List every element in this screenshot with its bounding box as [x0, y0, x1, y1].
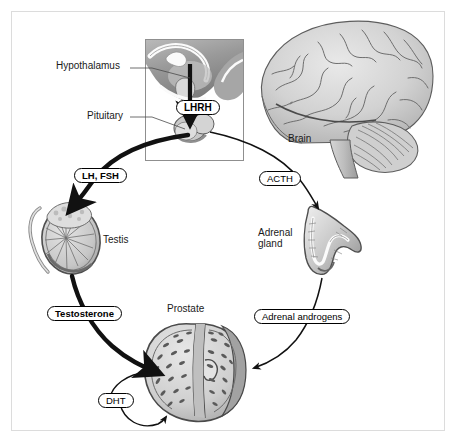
brain-illustration	[261, 21, 433, 178]
testis-illustration	[30, 202, 104, 277]
figure-canvas: Hypothalamus Pituitary Brain Testis Adre…	[0, 0, 458, 448]
callout-lh-fsh[interactable]: LH, FSH	[74, 168, 127, 183]
label-prostate: Prostate	[167, 303, 204, 314]
label-testis: Testis	[103, 234, 129, 245]
callout-adrenal-androgens[interactable]: Adrenal androgens	[254, 309, 350, 324]
label-brain: Brain	[288, 133, 311, 144]
label-adrenal-gland: Adrenal gland	[258, 227, 292, 249]
label-hypothalamus: Hypothalamus	[56, 60, 120, 71]
prostate-illustration	[144, 324, 246, 422]
adrenal-gland-illustration	[304, 206, 361, 274]
callout-testosterone[interactable]: Testosterone	[47, 306, 122, 321]
callout-dht[interactable]: DHT	[98, 393, 134, 408]
label-pituitary: Pituitary	[87, 110, 123, 121]
callout-lhrh[interactable]: LHRH	[176, 100, 220, 115]
callout-acth[interactable]: ACTH	[259, 171, 301, 186]
